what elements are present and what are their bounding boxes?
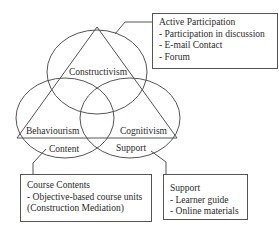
box-item: - Learner guide	[170, 195, 241, 207]
constructivism-label: Constructivism	[69, 67, 127, 78]
behaviourism-label: Behaviourism	[26, 126, 79, 137]
support-label: Support	[116, 143, 146, 154]
box-item: - Participation in discussion	[159, 29, 271, 41]
box-title: Course Contents	[27, 180, 145, 192]
box-item: - Forum	[159, 52, 271, 64]
connector-content	[33, 149, 46, 175]
connector-support	[151, 151, 166, 175]
box-item: - Objective-based course units	[27, 192, 145, 204]
support-box: Support - Learner guide - Online materia…	[163, 174, 248, 220]
connector-active	[115, 22, 152, 34]
box-title: Active Participation	[159, 17, 271, 29]
box-item: (Construction Mediation)	[27, 203, 145, 215]
cognitivism-label: Cognitivism	[120, 126, 167, 137]
box-item: - Online materials	[170, 206, 241, 218]
box-item: - E-mail Contact	[159, 40, 271, 52]
box-title: Support	[170, 183, 241, 195]
active-participation-box: Active Participation - Participation in …	[152, 13, 278, 69]
course-contents-box: Course Contents - Objective-based course…	[20, 174, 152, 222]
content-label: Content	[49, 144, 79, 155]
